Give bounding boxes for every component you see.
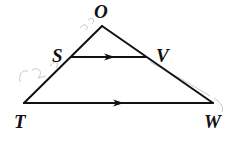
label-V: V bbox=[156, 45, 170, 66]
segment-OT bbox=[24, 26, 102, 103]
label-T: T bbox=[14, 111, 27, 132]
label-O: O bbox=[94, 1, 108, 22]
pencil-mark bbox=[150, 62, 223, 112]
label-S: S bbox=[52, 45, 63, 66]
triangle-diagram: O S V T W bbox=[0, 0, 247, 145]
label-W: W bbox=[204, 111, 222, 132]
